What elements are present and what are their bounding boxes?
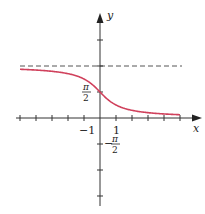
arccot-graph: y x −1 1 π 2 − π 2 bbox=[0, 0, 205, 214]
svg-text:2: 2 bbox=[83, 93, 89, 103]
svg-text:2: 2 bbox=[112, 145, 118, 155]
y-tick-label-minus-pi-over-2: − π 2 bbox=[104, 134, 120, 155]
x-tick-label-minus-one: −1 bbox=[79, 124, 95, 137]
x-axis-label: x bbox=[193, 122, 200, 135]
x-axis-arrow-icon bbox=[192, 115, 202, 122]
y-axis-arrow-icon bbox=[97, 13, 104, 23]
svg-text:π: π bbox=[82, 82, 90, 92]
svg-text:π: π bbox=[111, 134, 119, 144]
y-tick-label-pi-over-2: π 2 bbox=[82, 82, 91, 103]
y-axis-label: y bbox=[106, 9, 114, 22]
